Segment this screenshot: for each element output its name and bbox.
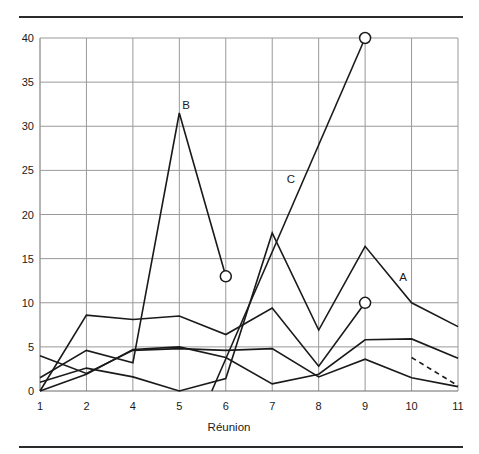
x-tick-label: 4 [130,400,136,412]
open-circle-marker [360,297,371,308]
figure: 1245678910110510152025303540 Réunion A B… [0,0,479,454]
x-axis-label: Réunion [208,422,251,434]
series-a-line [40,233,458,391]
x-tick-label: 9 [362,400,368,412]
series-label-b: B [182,100,190,112]
series-label-a: A [399,272,407,284]
x-tick-label: 7 [269,400,275,412]
line-chart-svg: 1245678910110510152025303540 [0,0,479,454]
y-tick-label: 10 [22,297,34,309]
y-tick-label: 15 [22,253,34,265]
open-circle-marker [220,271,231,282]
x-tick-label: 1 [37,400,43,412]
x-tick-label: 5 [176,400,182,412]
x-tick-label: 11 [452,400,463,412]
open-circle-marker [360,33,371,44]
y-tick-label: 0 [28,385,34,397]
y-tick-label: 35 [22,76,34,88]
y-tick-label: 40 [22,32,34,44]
y-tick-label: 30 [22,120,34,132]
y-tick-label: 5 [28,341,34,353]
y-tick-label: 20 [22,209,34,221]
x-tick-label: 10 [405,400,417,412]
x-tick-label: 6 [223,400,229,412]
series-label-c: C [287,174,295,186]
x-tick-label: 8 [316,400,322,412]
x-tick-label: 2 [83,400,89,412]
y-tick-label: 25 [22,164,34,176]
